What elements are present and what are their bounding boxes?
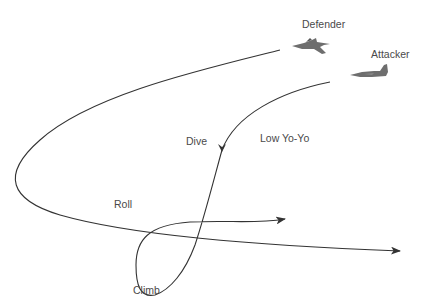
maneuver-diagram	[0, 0, 433, 307]
dive-label: Dive	[186, 135, 207, 147]
attacker-label: Attacker	[371, 48, 410, 60]
defender-label: Defender	[302, 18, 345, 30]
low-yo-yo-label: Low Yo-Yo	[260, 132, 309, 144]
defender-flight-path	[15, 50, 400, 251]
roll-label: Roll	[114, 198, 132, 210]
attacker-jet-icon	[350, 64, 388, 77]
climb-label: Climb	[133, 284, 160, 296]
defender-jet-icon	[292, 38, 330, 54]
attacker-climb-roll-path	[136, 150, 285, 295]
